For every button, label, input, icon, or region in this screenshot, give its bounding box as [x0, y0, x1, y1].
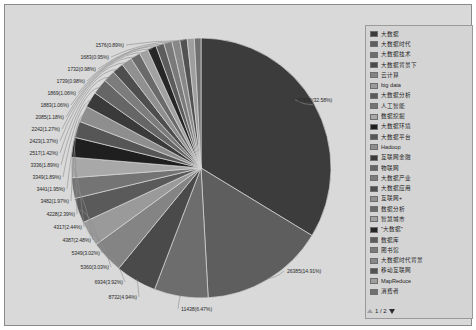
legend-item[interactable]: 大数据环境 [369, 122, 470, 132]
legend-item[interactable]: 消费者 [369, 286, 470, 296]
triangle-down-icon[interactable] [389, 309, 395, 314]
legend-item-label: Hadoop [381, 144, 401, 151]
legend-item[interactable]: 数据分析 [369, 204, 470, 214]
legend-swatch-icon [370, 165, 378, 171]
legend-item-label: 消费者 [381, 288, 399, 295]
legend-swatch-icon [370, 258, 378, 264]
legend-swatch-icon [370, 206, 378, 212]
legend-swatch-icon [370, 237, 378, 243]
legend-pager[interactable]: 1 / 2 [367, 308, 471, 314]
legend-item-label: 图书馆 [381, 247, 399, 254]
legend-swatch-icon [370, 247, 378, 253]
legend-item[interactable]: 智慧城市 [369, 214, 470, 224]
legend-item-label: 数据库 [381, 237, 399, 244]
legend-swatch-icon [370, 227, 378, 233]
legend-item-label: 大数据 [381, 31, 399, 38]
legend-item[interactable]: 数据挖掘 [369, 111, 470, 121]
pie-data-label: 3336(1.89%) [30, 162, 59, 168]
legend-swatch-icon [370, 114, 378, 120]
legend-item-label: 智慧城市 [381, 216, 405, 223]
pie-data-label: 2423(1.37%) [29, 138, 58, 144]
legend-item[interactable]: 人工智能 [369, 101, 470, 111]
legend-swatch-icon [370, 175, 378, 181]
legend-item-label: 大数据时代背景 [381, 257, 423, 264]
pie-data-label: 1739(0.98%) [56, 78, 85, 84]
legend-item[interactable]: 大数据技术 [369, 50, 470, 60]
legend-swatch-icon [370, 144, 378, 150]
legend-item[interactable]: 图书馆 [369, 245, 470, 255]
legend-swatch-icon [370, 155, 378, 161]
legend-swatch-icon [370, 124, 378, 130]
legend-item[interactable]: 大数据平台 [369, 132, 470, 142]
pie-data-label: 3441(1.95%) [36, 186, 65, 192]
chart-screenshot: 57636(32.58%)26385(14.91%)11438(6.47%)87… [0, 0, 476, 330]
legend-swatch-icon [370, 134, 378, 140]
legend-swatch-icon [370, 31, 378, 37]
pie-data-label: 26385(14.91%) [287, 268, 321, 274]
legend-item[interactable]: big data [369, 80, 470, 90]
legend-item[interactable]: 大数据应用 [369, 183, 470, 193]
legend-swatch-icon [370, 52, 378, 58]
legend-item[interactable]: 大数据时代背景 [369, 256, 470, 266]
legend-item-label: 大数据环境 [381, 123, 411, 130]
legend-item[interactable]: 物联网 [369, 163, 470, 173]
pie-data-label: 57636(32.58%) [298, 97, 332, 103]
legend-item-label: 大数据产业 [381, 175, 411, 182]
pie-data-label: 5360(3.03%) [80, 264, 109, 270]
legend-swatch-icon [370, 83, 378, 89]
pie-data-label: 1883(1.06%) [40, 102, 69, 108]
legend-item-label: 互联网+ [381, 195, 402, 202]
legend-item[interactable]: 大数据背景下 [369, 60, 470, 70]
pie-data-label: 4228(2.39%) [46, 211, 75, 217]
legend-item[interactable]: 大数据分析 [369, 91, 470, 101]
legend-item[interactable]: 云计算 [369, 70, 470, 80]
legend-swatch-icon [370, 72, 378, 78]
legend-item[interactable]: 大数据产业 [369, 173, 470, 183]
legend-item-label: 云计算 [381, 72, 399, 79]
pie-data-label: 8732(4.94%) [108, 294, 137, 300]
legend-item[interactable]: 大数据 [369, 29, 470, 39]
pie-data-label: 3482(1.97%) [40, 198, 69, 204]
legend-item-label: 物联网 [381, 165, 399, 172]
legend-item-label: 大数据应用 [381, 185, 411, 192]
pie-data-label: 1732(0.98%) [67, 66, 96, 72]
legend-item[interactable]: 数据库 [369, 235, 470, 245]
legend-item[interactable]: 移动互联网 [369, 266, 470, 276]
legend-swatch-icon [370, 41, 378, 47]
legend-item[interactable]: MapReduce [369, 276, 470, 286]
chart-panel: 57636(32.58%)26385(14.91%)11438(6.47%)87… [4, 4, 472, 326]
legend-item-label: 大数据背景下 [381, 62, 417, 69]
legend-swatch-icon [370, 186, 378, 192]
pager-label: 1 / 2 [375, 308, 387, 314]
legend-item-label: MapReduce [381, 278, 411, 285]
pie-data-label: 2517(1.42%) [29, 150, 58, 156]
legend-item-label: big data [381, 82, 401, 89]
legend-item-label: 大数据平台 [381, 134, 411, 141]
pie-data-label: 6934(3.92%) [94, 279, 123, 285]
triangle-up-icon[interactable] [367, 309, 373, 313]
pie-data-label: 2085(1.18%) [35, 114, 64, 120]
legend-item-label: 互联网金融 [381, 154, 411, 161]
pie-data-label: 2242(1.27%) [31, 126, 60, 132]
legend-swatch-icon [370, 93, 378, 99]
legend-swatch-icon [370, 62, 378, 68]
legend-swatch-icon [370, 196, 378, 202]
legend-rows: 大数据大数据时代大数据技术大数据背景下云计算big data大数据分析人工智能数… [369, 29, 470, 297]
legend-panel[interactable]: 大数据大数据时代大数据技术大数据背景下云计算big data大数据分析人工智能数… [365, 25, 473, 319]
legend-item[interactable]: 互联网+ [369, 194, 470, 204]
legend-item-label: 移动互联网 [381, 267, 411, 274]
legend-swatch-icon [370, 278, 378, 284]
pie-data-label: 5349(3.02%) [71, 250, 100, 256]
pie-data-label: 4387(2.48%) [62, 237, 91, 243]
legend-item-label: 数据分析 [381, 206, 405, 213]
legend-swatch-icon [370, 216, 378, 222]
legend-swatch-icon [370, 268, 378, 274]
pie-data-label: 1869(1.06%) [47, 90, 76, 96]
legend-item[interactable]: "大数据" [369, 225, 470, 235]
legend-item[interactable]: 互联网金融 [369, 153, 470, 163]
legend-item[interactable]: Hadoop [369, 142, 470, 152]
legend-item-label: "大数据" [381, 226, 403, 233]
legend-item[interactable]: 大数据时代 [369, 39, 470, 49]
legend-item-label: 人工智能 [381, 103, 405, 110]
legend-item-label: 大数据分析 [381, 92, 411, 99]
